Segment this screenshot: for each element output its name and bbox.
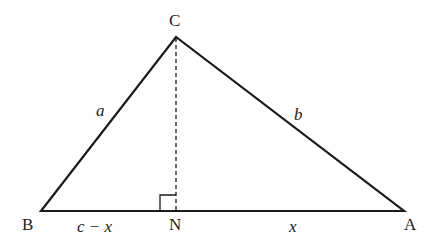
segment-na-label: x [289,218,297,235]
triangle-diagram: C B A N a b c − x x [0,0,445,249]
vertex-c-label: C [169,12,180,29]
segment-bn-label: c − x [77,218,112,235]
triangle-abc [41,37,404,211]
side-a-label: a [96,102,105,119]
vertex-a-label: A [404,216,416,233]
right-angle-marker [160,195,176,211]
side-b-label: b [294,106,303,123]
point-n-label: N [169,216,181,233]
vertex-b-label: B [22,216,33,233]
triangle-figure [0,0,445,249]
